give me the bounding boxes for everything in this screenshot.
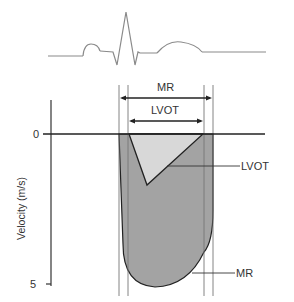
- tick-label-0: 0: [33, 128, 39, 140]
- ecg-tracing: [48, 12, 266, 65]
- tick-label-5: 5: [30, 278, 36, 290]
- mr-interval-arrow: [120, 96, 212, 101]
- mr-callout-label: MR: [236, 267, 253, 279]
- mr-interval-label: MR: [157, 81, 174, 93]
- lvot-interval-label: LVOT: [151, 104, 179, 116]
- lvot-callout-label: LVOT: [241, 160, 269, 172]
- lvot-interval-arrow: [129, 119, 203, 124]
- y-axis-label: Velocity (m/s): [15, 177, 27, 240]
- doppler-diagram: 0 5 Velocity (m/s) MR LVOT LVOT MR: [0, 0, 294, 302]
